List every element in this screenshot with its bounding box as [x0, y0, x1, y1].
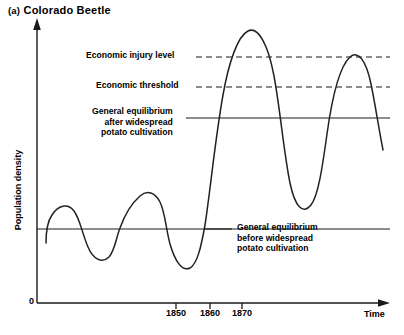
general-equilibrium-before-label: General equilibrium before widespread po… — [237, 222, 318, 254]
origin-zero-label: 0 — [29, 296, 34, 306]
economic-injury-level-label: Economic injury level — [86, 50, 174, 61]
x-axis — [37, 299, 390, 307]
x-axis-label: Time — [364, 309, 385, 319]
general-equilibrium-after-line3: potato cultivation — [92, 127, 173, 138]
general-equilibrium-before-line2: before widespread — [237, 233, 318, 244]
x-tick-label-1870: 1870 — [232, 308, 252, 318]
general-equilibrium-after-line2: after widespread — [92, 117, 173, 128]
page-title: (a) Colorado Beetle — [8, 4, 111, 16]
figure-panel: (a) Colorado Beetle Population density 0… — [0, 0, 404, 335]
chart-svg — [0, 0, 404, 335]
general-equilibrium-after-line1: General equilibrium — [92, 106, 173, 117]
panel-label: (a) — [8, 5, 20, 16]
y-axis — [33, 18, 41, 303]
general-equilibrium-before-line1: General equilibrium — [237, 222, 318, 233]
x-tick-label-1850: 1850 — [166, 308, 186, 318]
population-density-curve — [46, 30, 383, 269]
y-axis-label: Population density — [13, 135, 23, 245]
x-tick-label-1860: 1860 — [200, 308, 220, 318]
panel-title-text: Colorado Beetle — [23, 4, 110, 16]
general-equilibrium-after-label: General equilibrium after widespread pot… — [92, 106, 173, 138]
economic-threshold-label: Economic threshold — [96, 80, 179, 91]
general-equilibrium-before-line3: potato cultivation — [237, 243, 318, 254]
